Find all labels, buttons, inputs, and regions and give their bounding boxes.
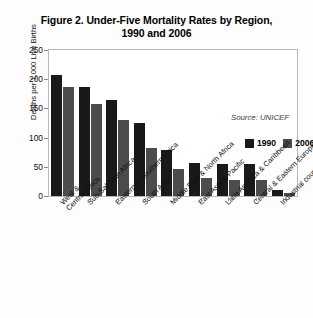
figure-title: Figure 2. Under-Five Mortality Rates by … — [18, 14, 295, 40]
y-axis-tick-mark — [44, 138, 48, 139]
bar-2006[interactable] — [63, 87, 74, 196]
legend-swatch-1990 — [245, 139, 254, 148]
x-axis-tick-mark — [283, 198, 284, 201]
y-axis-tick-mark — [44, 196, 48, 197]
x-axis-tick-mark — [118, 198, 119, 201]
figure-container: Figure 2. Under-Five Mortality Rates by … — [0, 0, 313, 318]
y-axis-tick-mark — [44, 108, 48, 109]
legend-label: 1990 — [257, 138, 276, 148]
legend-entry[interactable]: 1990 — [245, 138, 276, 148]
x-axis-tick-mark — [201, 198, 202, 201]
figure-title-line-1: Figure 2. Under-Five Mortality Rates by … — [18, 14, 295, 27]
y-axis-tick-label: 100 — [29, 133, 43, 143]
x-axis-tick-mark — [63, 198, 64, 201]
y-axis-tick-mark — [44, 79, 48, 80]
y-axis-tick-label: 50 — [34, 162, 43, 172]
y-axis-tick-label: 150 — [29, 103, 43, 113]
x-axis-tick-mark — [228, 198, 229, 201]
y-axis-tick-label: 200 — [29, 74, 43, 84]
source-note: Source: UNICEF — [231, 113, 289, 122]
figure-title-line-2: 1990 and 2006 — [18, 27, 295, 40]
y-axis-tick-label: 250 — [29, 45, 43, 55]
x-axis-tick-mark — [173, 198, 174, 201]
y-axis-tick-label: 0 — [38, 191, 43, 201]
x-axis-tick-mark — [256, 198, 257, 201]
y-axis-tick-mark — [44, 50, 48, 51]
x-axis-labels: West &Central AfricaSub-Saharan AfricaEa… — [0, 0, 313, 318]
bar-1990[interactable] — [51, 75, 62, 196]
bar-group — [49, 50, 77, 196]
x-axis-tick-mark — [90, 198, 91, 201]
bar-group — [159, 50, 187, 196]
y-axis-tick-mark — [44, 167, 48, 168]
x-axis-tick-mark — [145, 198, 146, 201]
